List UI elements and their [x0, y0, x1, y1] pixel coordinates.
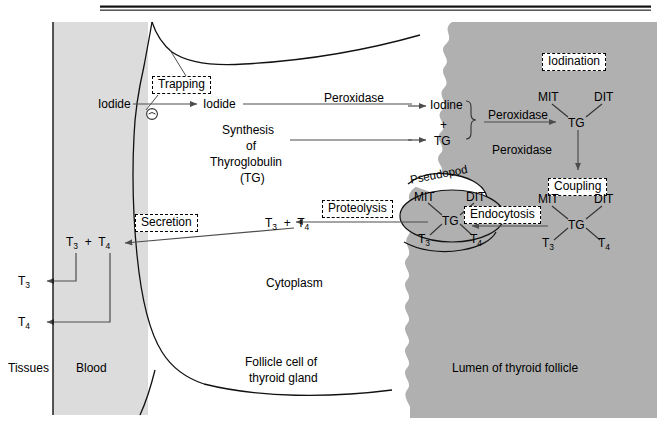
- step-box-iodination[interactable]: Iodination: [542, 53, 606, 71]
- step-box-proteolysis[interactable]: Proteolysis: [322, 200, 393, 218]
- molecule-dit-droplet: DIT: [466, 190, 485, 204]
- molecule-tg-lumen: TG: [434, 134, 451, 148]
- hormones-in-blood: T3 + T4: [66, 235, 110, 251]
- region-label-blood: Blood: [76, 361, 107, 375]
- molecule-iodide-cell: Iodide: [203, 97, 236, 111]
- synthesis-line4: (TG): [240, 171, 265, 185]
- region-label-lumen: Lumen of thyroid follicle: [452, 361, 578, 375]
- molecule-t4-droplet: T4: [470, 232, 482, 248]
- synthesis-line2: of: [246, 139, 256, 153]
- top-rule: [100, 6, 651, 11]
- step-box-endocytosis[interactable]: Endocytosis: [464, 206, 541, 224]
- molecule-tg-droplet: TG: [442, 214, 459, 228]
- synthesis-line1: Synthesis: [222, 123, 274, 137]
- synthesis-line3: Thyroglobulin: [210, 155, 282, 169]
- molecule-t4-coupling: T4: [598, 236, 610, 252]
- molecule-dit-iodination: DIT: [594, 90, 613, 104]
- step-box-secretion[interactable]: Secretion: [135, 214, 198, 232]
- step-box-trapping[interactable]: Trapping: [152, 76, 211, 94]
- molecule-iodide-blood: Iodide: [98, 97, 131, 111]
- region-label-tissues: Tissues: [8, 361, 49, 375]
- molecule-mit-iodination: MIT: [538, 90, 559, 104]
- hormone-t3-to-tissues: T3: [18, 274, 30, 290]
- enzyme-peroxidase-1: Peroxidase: [324, 91, 384, 105]
- cell-membrane-top-stub: [152, 22, 420, 65]
- molecule-tg-coupling: TG: [568, 218, 585, 232]
- iodide-pump-icon: [147, 109, 158, 120]
- region-label-cytoplasm: Cytoplasm: [266, 276, 323, 290]
- hormone-t4-to-tissues: T4: [18, 315, 30, 331]
- lumen-bottom-fill: [410, 400, 657, 418]
- plus-sign-iodine-tg: +: [440, 118, 447, 132]
- molecule-mit-coupling: MIT: [538, 192, 559, 206]
- figure-canvas: Tissues Blood Follicle cell of thyroid g…: [0, 0, 657, 434]
- enzyme-peroxidase-2: Peroxidase: [488, 108, 548, 122]
- molecule-t3-droplet: T3: [418, 232, 430, 248]
- leader-membrane-trapping: [170, 50, 186, 76]
- molecule-iodine: Iodine: [430, 98, 463, 112]
- molecule-t3-coupling: T3: [542, 236, 554, 252]
- hormones-in-cytoplasm: T3 + T4: [265, 216, 309, 232]
- region-label-follicle-cell-line1: Follicle cell of: [245, 355, 317, 369]
- molecule-dit-coupling: DIT: [594, 192, 613, 206]
- region-label-follicle-cell-line2: thyroid gland: [249, 371, 318, 385]
- molecule-mit-droplet: MIT: [414, 190, 435, 204]
- molecule-tg-iodination: TG: [568, 116, 585, 130]
- enzyme-peroxidase-3: Peroxidase: [492, 143, 552, 157]
